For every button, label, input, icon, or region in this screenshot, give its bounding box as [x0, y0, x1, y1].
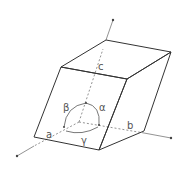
arc-dot-c	[85, 102, 87, 104]
arc-dot-b	[98, 124, 100, 126]
axis-c-outer	[106, 20, 113, 40]
right-face	[99, 52, 171, 150]
axis-endpoints	[16, 19, 172, 157]
label-alpha: α	[99, 102, 106, 113]
axis-c-end-dot	[112, 19, 114, 21]
axis-b-end-dot	[170, 137, 172, 139]
label-beta: β	[63, 102, 69, 113]
arc-alpha	[86, 103, 99, 125]
axis-a-inner	[34, 122, 79, 146]
label-c: c	[98, 61, 104, 72]
label-gamma: γ	[81, 135, 87, 146]
diagram-svg: c a b β α γ	[0, 0, 181, 170]
label-a: a	[46, 129, 52, 140]
axis-b-outer	[144, 133, 171, 138]
arc-gamma	[66, 127, 98, 133]
label-b: b	[127, 120, 133, 131]
cell-edges	[34, 40, 171, 150]
axis-a-end-dot	[16, 155, 18, 157]
top-face	[61, 40, 171, 79]
unit-cell-diagram: c a b β α γ	[0, 0, 181, 170]
axis-a-outer	[17, 146, 34, 156]
arc-dot-a	[63, 126, 65, 128]
axes	[17, 20, 171, 156]
